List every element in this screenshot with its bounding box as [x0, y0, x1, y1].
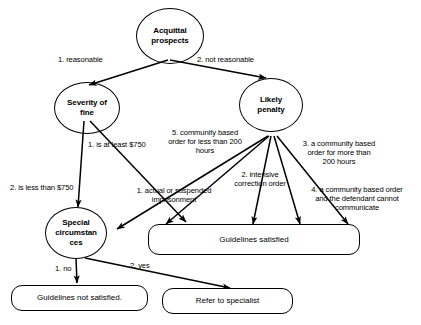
edge-label-community-based-more-200: 3. a community based order for more than… — [293, 139, 385, 167]
node-likely-penalty[interactable]: Likely penalty — [239, 78, 303, 132]
node-guidelines-not-satisfied[interactable]: Guidelines not satisfied. — [11, 285, 148, 311]
edge-label-not-reasonable: 2. not reasonable — [197, 55, 289, 64]
node-acquittal-prospects[interactable]: Acquittal prospects — [136, 8, 204, 64]
diagram-canvas: Acquittal prospects Severity of fine Lik… — [0, 0, 421, 325]
edge-label-yes: 2. yes — [130, 261, 164, 270]
node-special-circumstances[interactable]: Special circumstan ces — [45, 207, 107, 259]
edge-label-reasonable: 1. reasonable — [58, 55, 138, 64]
edge-label-intensive-correction: 2. intensive correction order — [222, 170, 298, 188]
edge-label-no: 1. no — [55, 264, 85, 273]
node-severity-of-fine[interactable]: Severity of fine — [54, 82, 120, 134]
edge-label-community-based-no-contact: 4. a community based order and the defen… — [296, 185, 418, 213]
edge-label-less-than-750: 2. is less than $750 — [10, 183, 110, 192]
node-refer-to-specialist[interactable]: Refer to specialist — [162, 288, 293, 314]
edge-label-community-based-less-200: 5. community based order for less than 2… — [150, 128, 260, 156]
edge-label-actual-or-suspended: 1. actual or suspended imprisonment — [124, 186, 224, 204]
node-guidelines-satisfied[interactable]: Guidelines satisfied — [148, 224, 360, 255]
